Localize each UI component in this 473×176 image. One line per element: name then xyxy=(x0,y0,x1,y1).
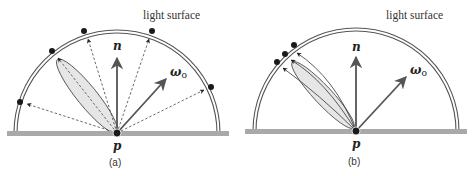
panel-b: light surface n ωo p (b) xyxy=(245,9,467,167)
light-surface-label: light surface xyxy=(386,9,443,22)
shading-point xyxy=(113,129,121,137)
brdf-lobe xyxy=(50,53,125,139)
brdf-lobe xyxy=(286,56,361,134)
panel-caption: (b) xyxy=(348,156,360,167)
outgoing-label: ωo xyxy=(170,65,187,80)
outgoing-arrow xyxy=(117,79,166,133)
normal-label: n xyxy=(352,40,361,54)
panel-caption: (a) xyxy=(109,157,121,168)
normal-label: n xyxy=(113,39,122,53)
point-label: p xyxy=(352,137,361,151)
shading-point xyxy=(352,127,360,135)
panel-a: light surface n ωo p (a) xyxy=(7,9,229,168)
light-surface-label: light surface xyxy=(143,9,200,22)
point-label: p xyxy=(113,139,122,153)
outgoing-arrow xyxy=(356,77,406,131)
outgoing-label: ωo xyxy=(410,63,427,78)
hemisphere-sampling-diagram: light surface n ωo p (a) light surface n xyxy=(0,0,473,176)
